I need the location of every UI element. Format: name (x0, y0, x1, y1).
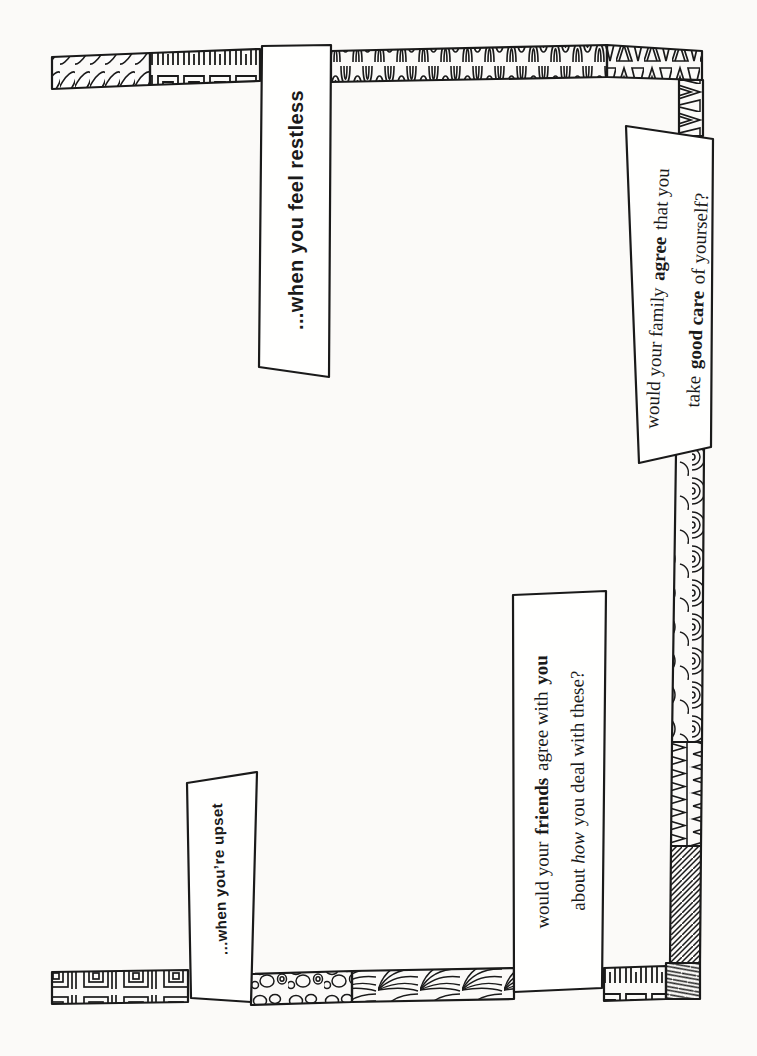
zigzag-doodle-band (671, 742, 702, 846)
shell-arc-doodle-band (672, 448, 704, 742)
border-top (52, 45, 703, 136)
square-spiral-doodle-band (52, 970, 188, 1004)
pebble-doodle-band (251, 971, 352, 1005)
fan-swirl-doodle-band (352, 968, 514, 1002)
flame-wave-doodle-band (331, 45, 607, 82)
greek-key-doodle-band (150, 49, 260, 85)
scanned-worksheet-page: ...when you feel restless would your fam… (0, 0, 757, 1056)
upset-banner-box (187, 772, 257, 1002)
friends-question-box (513, 591, 606, 992)
triangle-doodle-corner (679, 80, 703, 136)
diagonal-hatch-doodle-band (670, 846, 701, 963)
greek-key-doodle-band-bottom (604, 966, 666, 1001)
border-right (666, 448, 704, 999)
doodle-border-drawing (0, 0, 757, 1056)
triangle-doodle-band (607, 45, 702, 80)
rope-doodle-band (52, 53, 150, 89)
hatch-corner-doodle (666, 963, 700, 999)
restless-banner-box (259, 45, 331, 377)
family-question-box (626, 126, 713, 463)
